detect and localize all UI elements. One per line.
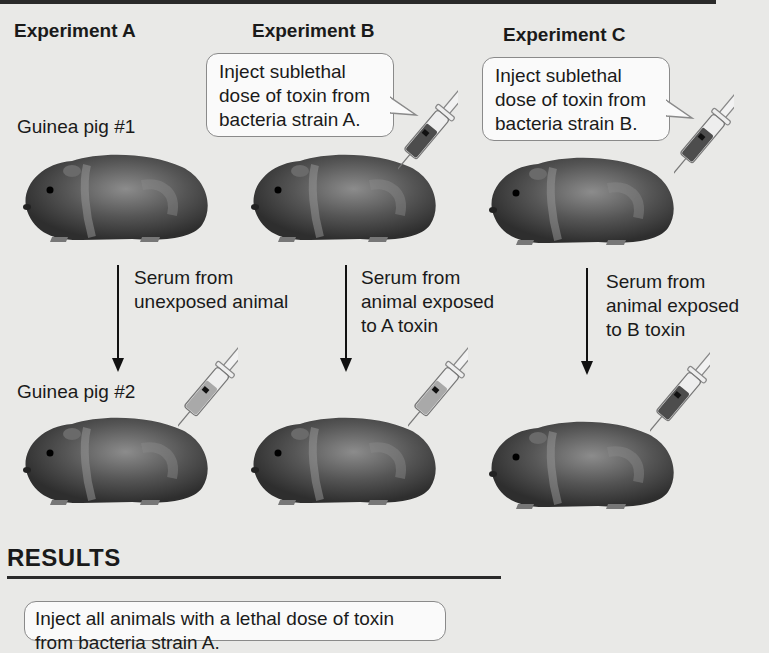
- arrow-b-line: [345, 265, 347, 361]
- syringe-icon-c-top: [674, 82, 734, 192]
- guinea-pig-1-label: Guinea pig #1: [17, 115, 135, 139]
- callout-experiment-b: Inject sublethal dose of toxin from bact…: [206, 53, 394, 137]
- serum-c-line1: Serum from: [606, 270, 739, 294]
- guinea-pig-c1: [478, 148, 678, 248]
- experiment-b-title: Experiment B: [252, 20, 374, 42]
- results-instruction-text: Inject all animals with a lethal dose of…: [35, 608, 394, 653]
- serum-a-line1: Serum from: [134, 266, 288, 290]
- serum-b-line2: animal exposed: [361, 290, 494, 314]
- guinea-pig-b2: [240, 408, 440, 508]
- guinea-pig-a2: [12, 408, 212, 508]
- callout-c-line2: dose of toxin from: [495, 88, 657, 112]
- top-divider: [0, 0, 716, 4]
- guinea-pig-2-label: Guinea pig #2: [17, 380, 135, 404]
- arrow-b-head: [340, 358, 352, 372]
- callout-b-line1: Inject sublethal: [219, 60, 381, 84]
- experiment-c-title: Experiment C: [503, 24, 625, 46]
- experiment-a-title: Experiment A: [14, 20, 136, 42]
- callout-b-line3: bacteria strain A.: [219, 108, 381, 132]
- serum-b-line1: Serum from: [361, 266, 494, 290]
- callout-c-line3: bacteria strain B.: [495, 112, 657, 136]
- arrow-c-head: [581, 361, 593, 375]
- callout-experiment-c: Inject sublethal dose of toxin from bact…: [482, 57, 670, 141]
- arrow-c-line: [586, 268, 588, 364]
- guinea-pig-c2: [478, 412, 678, 512]
- callout-c-line1: Inject sublethal: [495, 64, 657, 88]
- serum-c-line2: animal exposed: [606, 294, 739, 318]
- syringe-icon-b-top: [398, 78, 458, 188]
- serum-a-line2: unexposed animal: [134, 290, 288, 314]
- arrow-a-line: [117, 265, 119, 361]
- results-divider: [7, 576, 501, 579]
- serum-label-c: Serum from animal exposed to B toxin: [606, 270, 739, 342]
- results-heading: RESULTS: [7, 544, 121, 572]
- serum-label-a: Serum from unexposed animal: [134, 266, 288, 314]
- arrow-a-head: [112, 358, 124, 372]
- serum-label-b: Serum from animal exposed to A toxin: [361, 266, 494, 338]
- results-instruction-box: Inject all animals with a lethal dose of…: [24, 601, 446, 641]
- serum-c-line3: to B toxin: [606, 318, 739, 342]
- callout-b-line2: dose of toxin from: [219, 84, 381, 108]
- guinea-pig-a1: [12, 145, 212, 245]
